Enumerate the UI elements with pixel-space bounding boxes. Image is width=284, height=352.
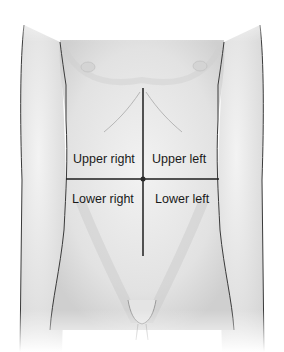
umbilicus-marker: [141, 177, 146, 182]
abdominal-quadrants-diagram: Upper right Upper left Lower right Lower…: [0, 0, 284, 352]
quadrant-label-lower-left: Lower left: [155, 193, 209, 206]
torso-illustration: [0, 0, 284, 352]
quadrant-label-upper-left: Upper left: [152, 153, 206, 166]
quadrant-label-upper-right: Upper right: [73, 153, 135, 166]
quadrant-label-lower-right: Lower right: [72, 193, 134, 206]
